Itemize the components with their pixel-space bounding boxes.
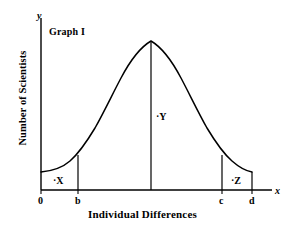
distribution-curve	[41, 41, 252, 172]
x-tick-label-c: c	[219, 196, 223, 206]
x-axis-symbol: x	[275, 186, 280, 196]
graph-caption: Graph I	[49, 27, 85, 37]
region-label-y: ·Y	[156, 112, 167, 122]
y-axis-symbol: y	[37, 11, 41, 21]
x-tick-label-0: 0	[38, 196, 43, 206]
x-tick-label-d: d	[249, 196, 255, 206]
graph-figure: y x Graph I Number of Scientists Individ…	[0, 0, 293, 241]
region-label-x: ·X	[53, 176, 64, 186]
x-tick-label-b: b	[75, 196, 81, 206]
y-axis-title: Number of Scientists	[18, 18, 32, 178]
x-axis-title: Individual Differences	[88, 209, 197, 220]
region-label-z: ·Z	[231, 176, 241, 186]
